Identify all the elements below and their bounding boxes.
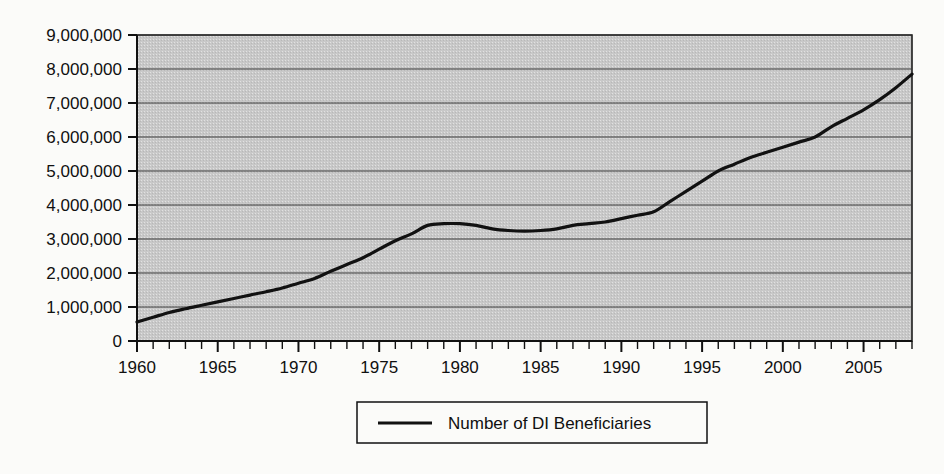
y-tick-label: 0 bbox=[113, 332, 122, 351]
y-axis-ticks: 01,000,0002,000,0003,000,0004,000,0005,0… bbox=[46, 26, 137, 351]
y-tick-label: 2,000,000 bbox=[46, 264, 122, 283]
x-tick-label: 1965 bbox=[199, 358, 237, 377]
x-tick-label: 1990 bbox=[602, 358, 640, 377]
x-tick-label: 1975 bbox=[360, 358, 398, 377]
x-axis-ticks: 1960196519701975198019851990199520002005 bbox=[118, 341, 912, 377]
chart-container: 01,000,0002,000,0003,000,0004,000,0005,0… bbox=[0, 0, 944, 474]
x-tick-label: 2000 bbox=[764, 358, 802, 377]
legend-label: Number of DI Beneficiaries bbox=[448, 414, 651, 433]
y-tick-label: 6,000,000 bbox=[46, 128, 122, 147]
y-tick-label: 3,000,000 bbox=[46, 230, 122, 249]
x-tick-label: 1970 bbox=[280, 358, 318, 377]
y-tick-label: 9,000,000 bbox=[46, 26, 122, 45]
y-tick-label: 4,000,000 bbox=[46, 196, 122, 215]
x-tick-label: 2005 bbox=[845, 358, 883, 377]
y-tick-label: 8,000,000 bbox=[46, 60, 122, 79]
y-tick-label: 5,000,000 bbox=[46, 162, 122, 181]
y-tick-label: 7,000,000 bbox=[46, 94, 122, 113]
x-tick-label: 1985 bbox=[522, 358, 560, 377]
legend: Number of DI Beneficiaries bbox=[357, 402, 707, 443]
line-chart: 01,000,0002,000,0003,000,0004,000,0005,0… bbox=[0, 0, 944, 474]
y-tick-label: 1,000,000 bbox=[46, 298, 122, 317]
x-tick-label: 1995 bbox=[683, 358, 721, 377]
x-tick-label: 1960 bbox=[118, 358, 156, 377]
x-tick-label: 1980 bbox=[441, 358, 479, 377]
